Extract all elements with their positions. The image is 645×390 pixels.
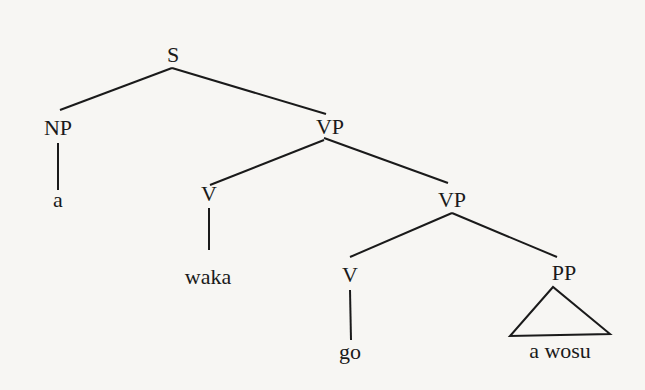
- edge-v-go: [350, 290, 351, 340]
- edge-s-vp: [172, 68, 326, 114]
- edge-s-np: [60, 68, 172, 110]
- edge-vp2-pp: [452, 213, 557, 257]
- leaf-waka: waka: [185, 266, 231, 288]
- node-np: NP: [44, 117, 72, 139]
- node-v-2: V: [342, 264, 358, 286]
- edge-vp-v: [210, 140, 324, 185]
- leaf-a-wosu: a wosu: [529, 340, 591, 362]
- node-pp: PP: [552, 262, 576, 284]
- edge-vp2-v: [350, 213, 452, 257]
- leaf-a: a: [53, 189, 63, 211]
- node-s: S: [167, 44, 179, 66]
- tree-edges: [0, 0, 645, 390]
- pp-triangle: [510, 287, 610, 336]
- leaf-go: go: [339, 341, 361, 363]
- node-vp-2: VP: [438, 189, 466, 211]
- edge-vp-vp: [324, 138, 448, 183]
- node-v-1: V: [201, 183, 217, 205]
- node-vp: VP: [316, 116, 344, 138]
